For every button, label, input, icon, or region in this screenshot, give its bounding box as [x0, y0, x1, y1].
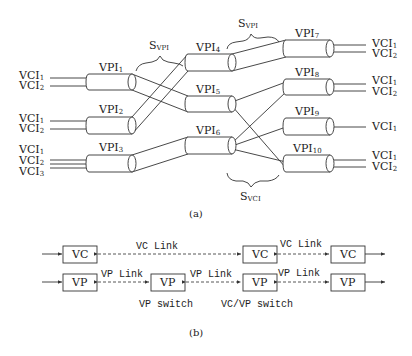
vc-link-1-label: VC Link: [136, 241, 178, 252]
vp-link-2-label: VP Link: [190, 269, 232, 280]
vpi-7-cylinder: [283, 40, 334, 57]
vpi-3-label: VPI3: [98, 141, 123, 154]
caption-b: (b): [189, 327, 203, 338]
vc-link-2-label: VC Link: [280, 239, 322, 250]
vpi-10-cylinder: [283, 155, 334, 172]
vpi-9-cylinder: [283, 118, 334, 135]
part-a: SVPI SVPI SVCI VPI1 VPI2 VPI3 VPI4 VPI5 …: [18, 17, 397, 219]
left-input-lines: [50, 78, 89, 168]
vpi-8-label: VPI8: [294, 66, 319, 79]
vpi-10-label: VPI10: [292, 142, 322, 155]
vpi-1-label: VPI1: [98, 61, 123, 74]
vp-switch-label: VP switch: [139, 299, 193, 310]
vp-link-1-label: VP Link: [101, 269, 143, 280]
vpi-6-cylinder: [185, 137, 236, 154]
caption-a: (a): [189, 208, 203, 219]
vpi-5-cylinder: [185, 96, 236, 112]
svg-text:SVCI: SVCI: [240, 190, 261, 203]
vpi-9-label: VPI9: [294, 105, 319, 118]
vpi-2-cylinder: [86, 117, 136, 134]
svg-text:VP: VP: [339, 276, 356, 289]
svg-text:VP: VP: [159, 276, 176, 289]
vci-switch-lines: [232, 82, 286, 168]
vpi-7-label: VPI7: [294, 27, 319, 40]
brace-svpi-left: SVPI: [136, 39, 183, 71]
right-output-lines: [334, 45, 366, 167]
atm-vp-vc-diagram: SVPI SVPI SVCI VPI1 VPI2 VPI3 VPI4 VPI5 …: [0, 0, 412, 356]
vpi-1-cylinder: [86, 74, 136, 90]
svg-text:SVPI: SVPI: [149, 39, 169, 52]
svg-text:VP: VP: [71, 276, 88, 289]
vpi-6-label: VPI6: [195, 124, 221, 137]
part-b: VC VC Link VC VC Link VC VP VP Link VP V…: [42, 239, 385, 338]
svg-text:SVPI: SVPI: [238, 17, 258, 30]
vpi-4-cylinder: [185, 54, 236, 71]
left-vci-labels: VCI1 VCI2 VCI1 VCI2 VCI1 VCI2 VCI3: [18, 69, 44, 178]
vc-vp-switch-label: VC/VP switch: [221, 299, 293, 310]
svg-text:VC: VC: [71, 248, 88, 261]
vp-row: VP VP Link VP VP Link VP VP Link VP: [42, 268, 385, 291]
vpi-5-label: VPI5: [195, 83, 220, 96]
vc-row: VC VC Link VC VC Link VC: [42, 239, 385, 263]
vpi-3-cylinder: [86, 155, 136, 172]
svg-text:VCI1: VCI1: [371, 120, 397, 133]
vpi-8-cylinder: [283, 79, 334, 95]
right-vci-labels: VCI1 VCI2 VCI1 VCI2 VCI1 VCI1 VCI2: [371, 37, 397, 173]
svg-text:VP: VP: [251, 276, 268, 289]
vpi-4-label: VPI4: [195, 41, 221, 54]
brace-svci: SVCI: [227, 173, 279, 203]
vpi-2-label: VPI2: [98, 103, 123, 116]
vp-link-3-label: VP Link: [278, 268, 320, 279]
svg-text:VC: VC: [339, 248, 356, 261]
svg-text:VC: VC: [251, 248, 268, 261]
